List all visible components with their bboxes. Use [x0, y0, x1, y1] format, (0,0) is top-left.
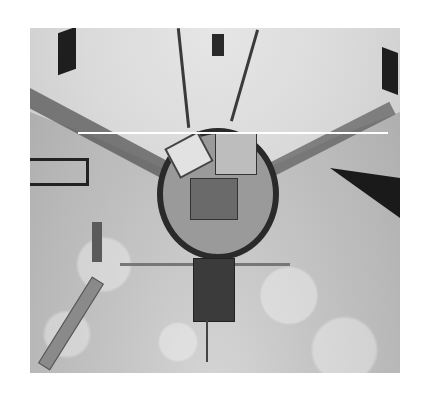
bay-frame-left — [30, 158, 89, 186]
scan-artifact-line — [78, 132, 388, 134]
bay-window-right — [382, 47, 398, 95]
bay-window-left — [58, 28, 76, 75]
bay-marker — [212, 34, 224, 56]
payload-module — [190, 178, 238, 220]
satellite-payload — [193, 258, 235, 322]
payload-equipment — [215, 133, 257, 175]
satellite-antenna — [206, 320, 208, 362]
robotic-arm-wrist — [92, 222, 102, 262]
payload-bay-photo — [30, 28, 400, 373]
bay-door-shadow — [330, 168, 400, 218]
